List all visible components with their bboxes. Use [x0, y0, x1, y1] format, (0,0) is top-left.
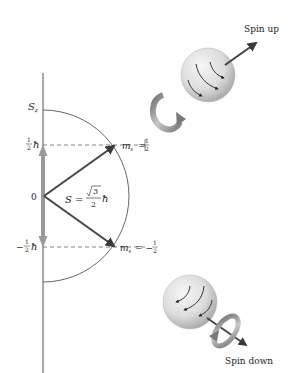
origin-label: 0 — [31, 192, 37, 202]
svg-text:2: 2 — [145, 145, 149, 152]
svg-text:1: 1 — [27, 136, 31, 143]
sz-label: Sz — [28, 101, 39, 113]
svg-text:2: 2 — [91, 200, 96, 209]
electron-sphere-down — [163, 275, 217, 329]
spin-down-illustration: Spin down — [163, 275, 273, 366]
svg-text:2: 2 — [27, 144, 31, 151]
upper-level-label: 1 2 ħ — [26, 136, 39, 151]
spin-magnitude-label: S = 3 2 ħ — [65, 186, 108, 209]
lower-level-label: − 1 2 ħ — [16, 238, 37, 253]
spin-up-illustration: Spin up — [153, 24, 279, 129]
svg-text:2: 2 — [25, 246, 29, 253]
svg-text:ħ: ħ — [102, 193, 108, 204]
vector-model: Sz 1 2 ħ 0 − 1 2 ħ S = 3 2 ħ ms — [16, 73, 158, 373]
spin-arc — [43, 110, 129, 282]
sz-down-arrow — [39, 196, 48, 248]
svg-text:3: 3 — [93, 187, 98, 196]
spin-diagram: Sz 1 2 ħ 0 − 1 2 ħ S = 3 2 ħ ms — [0, 0, 294, 373]
sz-up-arrow — [39, 144, 48, 196]
spin-up-label: Spin up — [244, 24, 279, 34]
rotation-arrow-icon — [153, 95, 180, 129]
svg-text:ħ: ħ — [33, 139, 39, 150]
svg-text:1: 1 — [145, 137, 149, 144]
ms-lower-label: ms = − 1 2 — [120, 239, 158, 254]
spin-down-label: Spin down — [225, 356, 273, 366]
svg-text:ms: ms — [120, 243, 132, 254]
spin-up-vector — [225, 43, 256, 65]
svg-text:ms: ms — [122, 141, 134, 152]
svg-text:= −: = − — [135, 243, 153, 253]
svg-text:1: 1 — [25, 238, 29, 245]
spin-vector-up — [44, 146, 114, 196]
svg-text:−: − — [16, 242, 24, 252]
svg-text:ħ: ħ — [31, 241, 37, 252]
svg-text:1: 1 — [153, 239, 157, 246]
electron-sphere-up — [181, 48, 235, 102]
svg-text:2: 2 — [153, 247, 157, 254]
ms-upper-label: ms = 1 2 — [122, 137, 150, 152]
svg-text:S =: S = — [65, 194, 83, 205]
